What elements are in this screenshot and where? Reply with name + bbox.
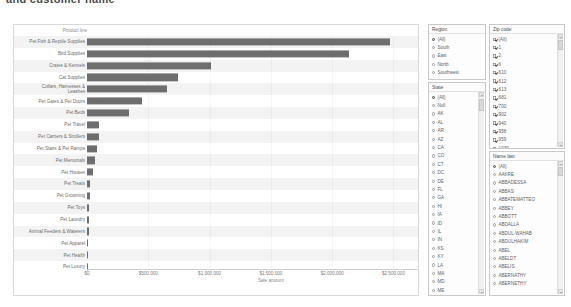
radio-icon[interactable] <box>432 196 435 199</box>
radio-icon[interactable] <box>493 282 496 285</box>
radio-icon[interactable] <box>493 240 496 243</box>
radio-icon[interactable] <box>432 263 435 266</box>
filter-option[interactable]: ABELDT <box>493 254 564 262</box>
bar[interactable] <box>87 133 99 140</box>
scrollbar-thumb[interactable] <box>558 167 563 176</box>
checkbox-icon[interactable] <box>493 88 496 91</box>
radio-icon[interactable] <box>432 221 435 224</box>
zip-scrollbar[interactable] <box>557 34 563 147</box>
filter-option[interactable]: North <box>432 60 485 68</box>
filter-option[interactable]: West <box>432 77 485 80</box>
radio-icon[interactable] <box>493 173 496 176</box>
radio-icon[interactable] <box>432 171 435 174</box>
checkbox-icon[interactable] <box>493 46 496 49</box>
bar[interactable] <box>87 157 95 164</box>
filter-option[interactable]: ABBATEMATTEO <box>493 196 564 204</box>
scroll-up-icon[interactable] <box>558 161 563 166</box>
radio-icon[interactable] <box>432 146 435 149</box>
radio-icon[interactable] <box>493 257 496 260</box>
bar[interactable] <box>87 38 390 45</box>
radio-icon[interactable] <box>493 249 496 252</box>
radio-icon[interactable] <box>493 265 496 268</box>
filter-option[interactable]: ABDALLA <box>493 221 564 229</box>
radio-icon[interactable] <box>493 223 496 226</box>
filter-option[interactable]: 1030 <box>493 144 564 149</box>
filter-option[interactable]: 902 <box>493 111 564 119</box>
filter-option[interactable]: ABERNETHY <box>493 279 564 287</box>
radio-icon[interactable] <box>432 280 435 283</box>
bar[interactable] <box>87 86 167 93</box>
filter-option[interactable]: (All) <box>432 35 485 43</box>
filter-option[interactable]: ABELIS <box>493 263 564 271</box>
bar[interactable] <box>87 180 90 187</box>
radio-icon[interactable] <box>432 154 435 157</box>
radio-icon[interactable] <box>493 165 496 168</box>
scroll-up-icon[interactable] <box>558 34 563 39</box>
filter-option[interactable]: 1 <box>493 43 564 51</box>
filter-option[interactable]: ABBOTT <box>493 212 564 220</box>
bar[interactable] <box>87 109 129 116</box>
radio-icon[interactable] <box>432 230 435 233</box>
checkbox-icon[interactable] <box>493 38 496 41</box>
radio-icon[interactable] <box>432 180 435 183</box>
bar[interactable] <box>87 74 178 81</box>
state-filter-list[interactable]: (All)NullAKALARAZCACOCTDCDEFLGAHIIAIDILI… <box>429 92 485 294</box>
filter-option[interactable]: 2 <box>493 52 564 60</box>
filter-option[interactable]: Southwest <box>432 69 485 77</box>
radio-icon[interactable] <box>432 255 435 258</box>
bar[interactable] <box>87 204 89 211</box>
filter-option[interactable]: ABERNATHY <box>493 271 564 279</box>
radio-icon[interactable] <box>493 198 496 201</box>
filter-option[interactable]: 940 <box>493 119 564 127</box>
filter-option[interactable]: 959 <box>493 136 564 144</box>
checkbox-icon[interactable] <box>493 54 496 57</box>
bar[interactable] <box>87 216 89 223</box>
radio-icon[interactable] <box>432 104 435 107</box>
filter-option[interactable]: ABBEY <box>493 204 564 212</box>
radio-icon[interactable] <box>432 71 435 74</box>
radio-icon[interactable] <box>493 190 496 193</box>
filter-option[interactable]: (All) <box>493 162 564 170</box>
bar[interactable] <box>87 252 88 259</box>
filter-option[interactable]: 681 <box>493 94 564 102</box>
filter-option[interactable]: ABDULHAKIM <box>493 238 564 246</box>
checkbox-icon[interactable] <box>493 121 496 124</box>
filter-option[interactable]: 958 <box>493 127 564 135</box>
filter-option[interactable]: 6 <box>493 60 564 68</box>
radio-icon[interactable] <box>493 207 496 210</box>
radio-icon[interactable] <box>432 138 435 141</box>
region-filter-list[interactable]: (All)SouthEastNorthSouthwestWest <box>429 34 485 80</box>
bar[interactable] <box>87 192 90 199</box>
state-scrollbar[interactable] <box>478 92 484 294</box>
checkbox-icon[interactable] <box>493 147 496 149</box>
checkbox-icon[interactable] <box>493 71 496 74</box>
bar[interactable] <box>87 145 97 152</box>
radio-icon[interactable] <box>493 232 496 235</box>
radio-icon[interactable] <box>432 289 435 292</box>
scroll-down-icon[interactable] <box>479 289 484 294</box>
filter-option[interactable]: 610 <box>493 69 564 77</box>
filter-option[interactable]: 612 <box>493 77 564 85</box>
filter-option[interactable]: ABBAS <box>493 187 564 195</box>
filter-option[interactable]: AAKRE <box>493 170 564 178</box>
radio-icon[interactable] <box>432 121 435 124</box>
scroll-down-icon[interactable] <box>558 289 563 294</box>
checkbox-icon[interactable] <box>493 138 496 141</box>
radio-icon[interactable] <box>432 63 435 66</box>
radio-icon[interactable] <box>432 112 435 115</box>
filter-option[interactable]: East <box>432 52 485 60</box>
checkbox-icon[interactable] <box>493 63 496 66</box>
radio-icon[interactable] <box>432 46 435 49</box>
bar[interactable] <box>87 228 89 235</box>
filter-option[interactable]: ABDUL-WAHAB <box>493 229 564 237</box>
radio-icon[interactable] <box>432 205 435 208</box>
filter-option[interactable]: (All) <box>493 35 564 43</box>
scroll-down-icon[interactable] <box>558 142 563 147</box>
scroll-up-icon[interactable] <box>479 92 484 97</box>
bar[interactable] <box>87 50 349 57</box>
radio-icon[interactable] <box>432 38 435 41</box>
checkbox-icon[interactable] <box>493 105 496 108</box>
filter-option[interactable]: 613 <box>493 85 564 93</box>
radio-icon[interactable] <box>493 215 496 218</box>
radio-icon[interactable] <box>432 96 435 99</box>
